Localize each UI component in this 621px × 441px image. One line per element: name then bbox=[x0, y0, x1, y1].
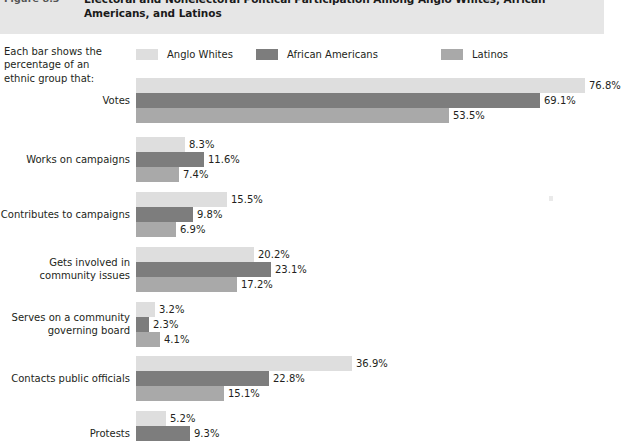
bar-value-label: 17.2% bbox=[237, 277, 273, 292]
bar-value-label: 23.1% bbox=[271, 262, 307, 277]
bar-value-label: 11.6% bbox=[204, 152, 240, 167]
bar-latinos[interactable] bbox=[136, 222, 176, 237]
bar-value-label: 9.3% bbox=[190, 426, 219, 441]
chart-plot-area: Each bar shows the percentage of an ethn… bbox=[0, 34, 604, 427]
bar-value-label: 6.9% bbox=[176, 222, 205, 237]
bar-african-americans[interactable] bbox=[136, 317, 149, 332]
bar-value-label: 15.5% bbox=[227, 192, 263, 207]
bar-latinos[interactable] bbox=[136, 332, 160, 347]
bar-latinos[interactable] bbox=[136, 277, 237, 292]
chart-legend: Anglo WhitesAfrican AmericansLatinos bbox=[136, 46, 576, 62]
bar-anglo-whites[interactable] bbox=[136, 411, 166, 426]
legend-swatch-icon bbox=[136, 49, 158, 60]
category-label: Serves on a communitygoverning board bbox=[0, 312, 130, 337]
scan-artifact bbox=[549, 196, 553, 201]
bar-african-americans[interactable] bbox=[136, 371, 269, 386]
bar-latinos[interactable] bbox=[136, 108, 449, 123]
category-label-line: Serves on a community bbox=[0, 312, 130, 325]
figure-number: Figure 8.3 bbox=[4, 0, 60, 4]
category-label-line: Contributes to campaigns bbox=[0, 209, 130, 222]
bar-value-label: 2.3% bbox=[149, 317, 178, 332]
legend-item-african-americans: African Americans bbox=[256, 46, 378, 62]
bar-latinos[interactable] bbox=[136, 167, 179, 182]
bar-value-label: 53.5% bbox=[449, 108, 485, 123]
figure-title: Electoral and Nonelectoral Political Par… bbox=[84, 0, 598, 20]
bar-value-label: 76.8% bbox=[585, 78, 621, 93]
bar-african-americans[interactable] bbox=[136, 152, 204, 167]
bar-value-label: 9.8% bbox=[193, 207, 222, 222]
figure-header-band: Figure 8.3 Electoral and Nonelectoral Po… bbox=[0, 0, 604, 34]
legend-swatch-icon bbox=[256, 49, 278, 60]
bar-african-americans[interactable] bbox=[136, 426, 190, 441]
chart-subtitle-note: Each bar shows the percentage of an ethn… bbox=[4, 45, 122, 85]
category-label-line: Contacts public officials bbox=[0, 373, 130, 386]
bar-value-label: 3.2% bbox=[155, 302, 184, 317]
bar-value-label: 20.2% bbox=[254, 247, 290, 262]
bar-value-label: 5.2% bbox=[166, 411, 195, 426]
bar-value-label: 15.1% bbox=[224, 386, 260, 401]
bar-anglo-whites[interactable] bbox=[136, 192, 227, 207]
bar-african-americans[interactable] bbox=[136, 262, 271, 277]
bar-value-label: 7.4% bbox=[179, 167, 208, 182]
legend-item-anglo-whites: Anglo Whites bbox=[136, 46, 233, 62]
legend-label: Anglo Whites bbox=[167, 49, 233, 60]
category-label: Gets involved incommunity issues bbox=[0, 257, 130, 282]
category-label-line: governing board bbox=[0, 325, 130, 338]
bar-value-label: 4.1% bbox=[160, 332, 189, 347]
bar-value-label: 36.9% bbox=[352, 356, 388, 371]
bar-african-americans[interactable] bbox=[136, 93, 540, 108]
bar-value-label: 22.8% bbox=[269, 371, 305, 386]
category-label-line: Gets involved in bbox=[0, 257, 130, 270]
legend-swatch-icon bbox=[441, 49, 463, 60]
legend-label: Latinos bbox=[472, 49, 508, 60]
category-label-line: Protests bbox=[0, 428, 130, 441]
bar-value-label: 8.3% bbox=[185, 137, 214, 152]
category-label-line: Votes bbox=[0, 95, 130, 108]
bar-anglo-whites[interactable] bbox=[136, 356, 352, 371]
bar-african-americans[interactable] bbox=[136, 207, 193, 222]
category-label: Contributes to campaigns bbox=[0, 209, 130, 222]
category-label: Votes bbox=[0, 95, 130, 108]
legend-label: African Americans bbox=[287, 49, 378, 60]
bar-anglo-whites[interactable] bbox=[136, 247, 254, 262]
bar-anglo-whites[interactable] bbox=[136, 137, 185, 152]
category-label-line: Works on campaigns bbox=[0, 154, 130, 167]
legend-item-latinos: Latinos bbox=[441, 46, 508, 62]
bar-value-label: 69.1% bbox=[540, 93, 576, 108]
category-label: Protests bbox=[0, 428, 130, 441]
bar-anglo-whites[interactable] bbox=[136, 302, 155, 317]
bar-latinos[interactable] bbox=[136, 386, 224, 401]
bar-anglo-whites[interactable] bbox=[136, 78, 585, 93]
category-label-line: community issues bbox=[0, 270, 130, 283]
category-label: Contacts public officials bbox=[0, 373, 130, 386]
category-label: Works on campaigns bbox=[0, 154, 130, 167]
